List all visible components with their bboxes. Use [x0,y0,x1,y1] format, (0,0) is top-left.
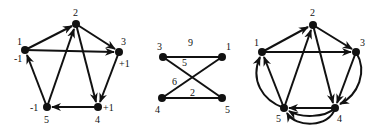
node-3 [159,53,167,61]
edge-1-3 [25,50,114,52]
weight-label-4-1: 6 [172,76,177,87]
node-2 [309,21,317,29]
right-edges [256,25,361,124]
node-label-5: 5 [225,104,230,115]
edge-5-1 [27,55,47,107]
node-label-2: 2 [73,7,78,18]
edge-2-4 [313,25,333,103]
edge-5-1 [264,57,284,108]
node-label-5: 5 [44,114,49,125]
node-label-4: 4 [155,104,160,115]
node-3 [115,48,123,56]
node-label-3: 3 [360,37,365,48]
node-4 [94,103,102,111]
weight-label-3-1: 9 [188,37,193,48]
node-4 [158,94,166,102]
node-1 [218,53,226,61]
node-label-5: 5 [276,113,281,124]
node-label-3: 3 [121,36,126,47]
supply-label-4: +1 [103,102,114,113]
graph-figure: 1 -1 2 3 +1 +1 4 -1 5 3 1 4 5 9 5 6 2 [0,0,378,135]
supply-label-3: +1 [119,58,130,69]
supply-label-1: -1 [14,53,22,64]
middle-graph: 3 1 4 5 9 5 6 2 [155,37,231,115]
right-graph: 1 2 3 4 5 [254,7,365,124]
node-5 [280,104,288,112]
node-5 [218,94,226,102]
edge-5-2 [47,29,74,107]
left-graph: 1 -1 2 3 +1 +1 4 -1 5 [14,7,130,125]
supply-label-5: -1 [30,102,38,113]
edge-3-4-curved [340,52,361,104]
node-3 [352,48,360,56]
edge-5-2 [284,30,311,108]
node-1 [258,48,266,56]
node-label-1: 1 [254,37,259,48]
node-4 [331,104,339,112]
weight-label-4-5: 2 [190,87,195,98]
edge-4-5-curved-a [289,108,335,116]
left-edges [25,24,119,107]
edge-5-1-curved [256,57,284,108]
node-label-1: 1 [17,36,22,47]
node-5 [43,103,51,111]
node-2 [72,20,80,28]
edge-3-4 [100,52,119,102]
weight-label-3-5: 5 [182,57,187,68]
node-label-4: 4 [337,113,342,124]
node-label-2: 2 [310,7,315,18]
edge-3-4 [337,52,356,103]
node-label-3: 3 [157,41,162,52]
node-label-1: 1 [226,41,231,52]
node-label-4: 4 [95,114,100,125]
edge-1-2 [262,27,308,52]
edge-1-2 [25,26,72,50]
